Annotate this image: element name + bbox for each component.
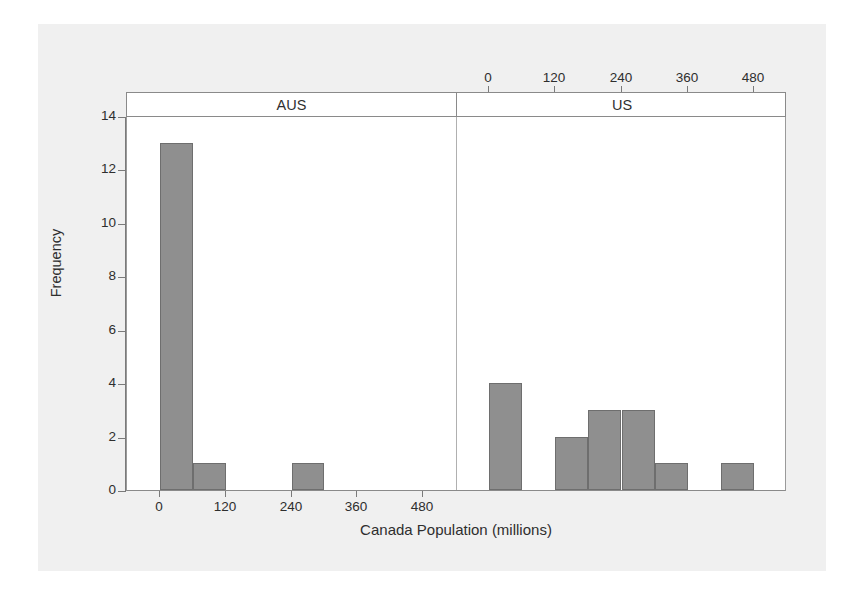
y-axis-tick-label: 14 (76, 108, 116, 123)
x-axis-bottom-tick (159, 491, 160, 497)
x-axis-top-tick-label: 0 (458, 70, 518, 85)
y-axis-labels: 02468101214 (72, 0, 116, 592)
x-axis-bottom-tick-label: 360 (326, 499, 386, 514)
x-axis-bottom-tick (225, 491, 226, 497)
x-axis-bottom-tick-label: 0 (129, 499, 189, 514)
y-axis-tick-label: 6 (76, 322, 116, 337)
x-axis-top-tick (621, 86, 622, 92)
y-axis-tick (118, 384, 125, 385)
y-axis-tick-label: 8 (76, 268, 116, 283)
y-axis-tick-label: 12 (76, 161, 116, 176)
y-axis-tick-label: 10 (76, 215, 116, 230)
y-axis-tick (118, 224, 125, 225)
x-axis-bottom-tick-label: 120 (195, 499, 255, 514)
y-axis-tick (118, 438, 125, 439)
histogram-bar (588, 410, 621, 490)
x-axis-bottom-tick (422, 491, 423, 497)
x-axis-top-tick (687, 86, 688, 92)
panel-aus (127, 117, 456, 490)
x-axis-top-tick (488, 86, 489, 92)
x-axis-top-tick-label: 240 (591, 70, 651, 85)
histogram-bar (489, 383, 522, 490)
y-axis-tick (118, 331, 125, 332)
y-axis-tick-label: 2 (76, 429, 116, 444)
x-axis-bottom-tick-label: 240 (261, 499, 321, 514)
y-axis-tick (118, 117, 125, 118)
x-axis-bottom-tick-label: 480 (392, 499, 452, 514)
y-axis-tick (118, 170, 125, 171)
histogram-bar (622, 410, 655, 490)
y-axis-tick (118, 277, 125, 278)
panel-header-aus-label: AUS (277, 97, 307, 113)
x-axis-title: Canada Population (millions) (126, 521, 786, 538)
histogram-bar (193, 463, 226, 490)
panel-header-strip: AUS US (126, 92, 786, 117)
panel-us (456, 117, 787, 490)
x-axis-top-tick-label: 360 (657, 70, 717, 85)
x-axis-bottom-tick (291, 491, 292, 497)
plot-area (126, 117, 786, 491)
y-axis-tick-label: 4 (76, 375, 116, 390)
histogram-bar (655, 463, 688, 490)
x-axis-top-tick (554, 86, 555, 92)
y-axis-line (125, 117, 126, 492)
histogram-bar (721, 463, 754, 490)
x-axis-top-tick-label: 120 (524, 70, 584, 85)
y-axis-tick (118, 491, 125, 492)
x-axis-top-tick (753, 86, 754, 92)
histogram-screenshot: AUS US 02468101214 Frequency 01202403604… (0, 0, 861, 592)
x-axis-top-tick-label: 480 (723, 70, 783, 85)
panel-header-us: US (456, 93, 787, 116)
histogram-bar (160, 143, 193, 490)
y-axis-tick-label: 0 (76, 482, 116, 497)
histogram-bar (555, 437, 588, 490)
panel-header-aus: AUS (127, 93, 456, 116)
histogram-bar (292, 463, 325, 490)
x-axis-bottom-tick (356, 491, 357, 497)
y-axis-title: Frequency (48, 183, 64, 343)
panel-header-us-label: US (612, 97, 632, 113)
